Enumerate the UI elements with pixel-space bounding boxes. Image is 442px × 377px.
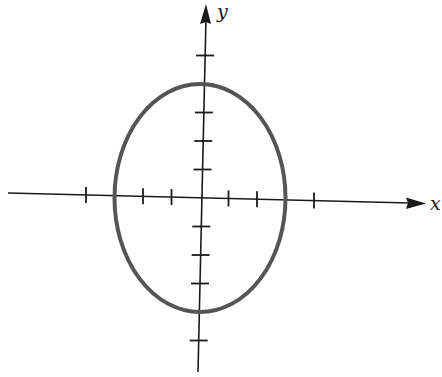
x-axis-arrow-icon (406, 198, 426, 210)
ellipse-diagram: x y (0, 0, 442, 377)
y-axis (190, 4, 214, 372)
x-axis-label: x (430, 192, 441, 214)
y-axis-arrow-icon (200, 4, 211, 24)
y-axis-label: y (216, 0, 228, 22)
x-axis (8, 187, 426, 209)
